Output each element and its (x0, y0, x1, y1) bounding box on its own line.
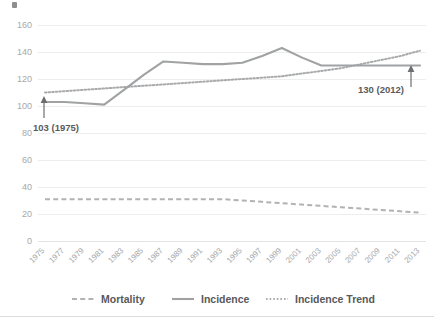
ytick-0: 0 (27, 236, 32, 246)
data-series (45, 48, 420, 213)
xtick-2009: 2009 (363, 246, 382, 265)
xtick-1977: 1977 (47, 246, 66, 265)
legend-label-incidence-trend: Incidence Trend (295, 293, 375, 305)
xtick-1997: 1997 (245, 246, 264, 265)
y-axis-tick-labels: 160 140 120 100 80 60 40 20 0 (17, 20, 32, 246)
legend-label-incidence: Incidence (201, 293, 250, 305)
annotation-arrowhead-left (41, 96, 48, 103)
series-line-incidence (45, 48, 420, 105)
ytick-120: 120 (17, 74, 32, 84)
xtick-1979: 1979 (67, 246, 86, 265)
xtick-1985: 1985 (126, 246, 145, 265)
corner-mark-icon (12, 2, 17, 8)
ytick-40: 40 (22, 182, 32, 192)
xtick-2001: 2001 (284, 246, 303, 265)
xtick-1981: 1981 (87, 246, 106, 265)
legend-item-incidence-trend[interactable]: Incidence Trend (266, 293, 375, 305)
xtick-1991: 1991 (185, 246, 204, 265)
xtick-1987: 1987 (146, 246, 165, 265)
xtick-1983: 1983 (106, 246, 125, 265)
ytick-160: 160 (17, 20, 32, 30)
xtick-2011: 2011 (383, 246, 402, 265)
annotation-130-2012: 130 (2012) (358, 65, 414, 95)
xtick-2007: 2007 (343, 246, 362, 265)
ytick-140: 140 (17, 47, 32, 57)
ytick-60: 60 (22, 155, 32, 165)
annotation-label-left: 103 (1975) (33, 122, 79, 133)
chart-container: 160 140 120 100 80 60 40 20 0 1975197719… (0, 0, 434, 320)
xtick-2005: 2005 (324, 246, 343, 265)
xtick-2013: 2013 (402, 246, 421, 265)
ytick-100: 100 (17, 101, 32, 111)
annotation-label-right: 130 (2012) (358, 84, 404, 95)
incidence-mortality-line-chart: 160 140 120 100 80 60 40 20 0 1975197719… (0, 0, 434, 320)
legend-item-mortality[interactable]: Mortality (72, 293, 145, 305)
xtick-1975: 1975 (27, 246, 46, 265)
xtick-2003: 2003 (304, 246, 323, 265)
chart-legend: Mortality Incidence Incidence Trend (72, 293, 375, 305)
legend-item-incidence[interactable]: Incidence (172, 293, 250, 305)
xtick-1993: 1993 (205, 246, 224, 265)
legend-label-mortality: Mortality (101, 293, 145, 305)
xtick-1989: 1989 (166, 246, 185, 265)
series-line-mortality (45, 199, 420, 213)
xtick-1999: 1999 (264, 246, 283, 265)
xtick-1995: 1995 (225, 246, 244, 265)
ytick-80: 80 (22, 128, 32, 138)
x-axis-tick-labels: 1975197719791981198319851987198919911993… (27, 246, 421, 265)
ytick-20: 20 (22, 209, 32, 219)
